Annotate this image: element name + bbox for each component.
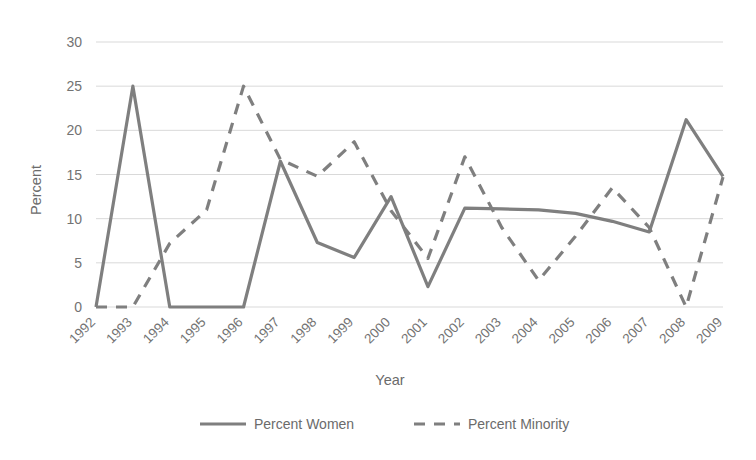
y-axis-title: Percent [28, 165, 44, 215]
line-chart: 051015202530 199219931994199519961997199… [0, 0, 756, 460]
legend-label-percent-women[interactable]: Percent Women [254, 416, 354, 432]
y-tick-label: 25 [66, 78, 82, 94]
y-tick-label: 30 [66, 34, 82, 50]
y-tick-label: 10 [66, 211, 82, 227]
legend-label-percent-minority[interactable]: Percent Minority [468, 416, 569, 432]
y-tick-label: 5 [74, 255, 82, 271]
chart-container: 051015202530 199219931994199519961997199… [0, 0, 756, 460]
x-axis-title: Year [375, 372, 404, 388]
y-tick-label: 0 [74, 299, 82, 315]
y-tick-label: 15 [66, 167, 82, 183]
y-tick-label: 20 [66, 122, 82, 138]
